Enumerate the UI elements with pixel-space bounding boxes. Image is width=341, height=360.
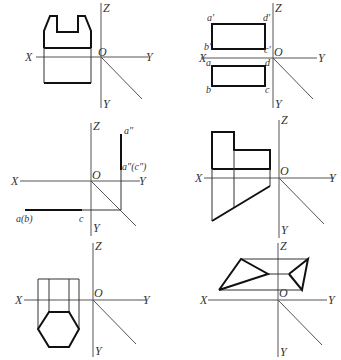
x-label: X (10, 174, 19, 188)
y-down-label: Y (281, 223, 289, 237)
panel-5: Z X O Y Y (14, 239, 151, 358)
x-label: X (14, 293, 23, 307)
z-label: Z (281, 113, 288, 127)
z-label: Z (103, 1, 110, 15)
front-view-top (44, 16, 91, 48)
y-right-label: Y (328, 293, 336, 307)
z-label: Z (95, 239, 102, 253)
panel-1: Z X O Y Y (24, 1, 154, 111)
y-right-label: Y (139, 174, 147, 188)
top-view-slant (212, 186, 270, 221)
front-view-left-triangle (219, 259, 268, 290)
panel-3: Z X O Y Y a″ a″(c″) a(b) c (10, 119, 147, 236)
front-view-l-shape (212, 132, 270, 169)
panel-2: Z X O Y Y a′ d′ b′ c′ a d b c (198, 1, 326, 111)
z-label: Z (275, 1, 282, 15)
origin-label: O (92, 168, 101, 182)
y-diagonal (91, 181, 136, 226)
label-a-c-dprime: a″(c″) (122, 161, 147, 173)
y-diagonal (278, 300, 322, 345)
y-right-label: Y (329, 171, 337, 185)
label-a: a (206, 57, 211, 68)
origin-label: O (274, 45, 283, 59)
label-c: c (79, 213, 84, 224)
label-c-prime: c′ (264, 44, 271, 55)
label-a-b: a(b) (16, 213, 33, 225)
hexagon-top-view (38, 312, 79, 347)
z-label: Z (280, 239, 287, 253)
label-d-prime: d′ (263, 12, 271, 23)
y-down-label: Y (275, 97, 283, 111)
y-right-label: Y (146, 50, 154, 64)
y-diagonal (101, 57, 142, 99)
label-b: b (206, 84, 211, 95)
y-diagonal (273, 58, 313, 99)
y-down-label: Y (280, 345, 288, 359)
y-diagonal (93, 300, 136, 344)
y-right-label: Y (318, 51, 326, 65)
panel-6: Z X O Y Y (199, 239, 336, 359)
z-label: Z (93, 119, 100, 133)
origin-label: O (98, 45, 107, 59)
y-down-label: Y (93, 221, 101, 235)
x-label: X (199, 293, 208, 307)
label-a-dprime: a″ (124, 125, 134, 136)
y-down-label: Y (95, 344, 103, 358)
panel-4: Z X O Y Y (194, 113, 337, 238)
y-right-label: Y (143, 293, 151, 307)
label-b-prime: b′ (204, 41, 212, 52)
x-label: X (194, 171, 203, 185)
origin-label: O (94, 286, 103, 300)
top-view-rect (212, 66, 265, 86)
label-c: c (265, 84, 270, 95)
y-diagonal (279, 178, 324, 224)
origin-label: O (280, 164, 289, 178)
label-a-prime: a′ (207, 12, 215, 23)
projection-figure: Z X O Y Y Z X O Y Y a′ d′ b′ c′ a d b c (0, 0, 341, 360)
x-label: X (24, 50, 33, 64)
side-view-right-triangle (289, 259, 308, 290)
front-view-rect (212, 24, 265, 49)
y-down-label: Y (103, 97, 111, 111)
label-d: d (265, 57, 271, 68)
origin-label: O (279, 286, 288, 300)
